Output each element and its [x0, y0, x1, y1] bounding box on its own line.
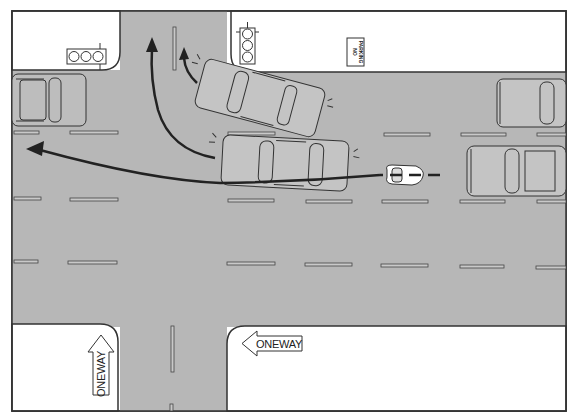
svg-text:PARKING: PARKING: [358, 41, 364, 64]
no-parking-sign: NO PARKING: [347, 38, 364, 66]
svg-text:ONEWAY: ONEWAY: [95, 350, 107, 397]
svg-text:ONEWAY: ONEWAY: [256, 338, 303, 350]
svg-text:NO: NO: [352, 48, 358, 56]
sidewalk-top-right: [231, 11, 566, 72]
parked-car-right-top: [497, 79, 566, 127]
intersection-diagram: NO PARKING ONEWAY ONEWAY: [0, 0, 575, 420]
car-right-lower: [467, 146, 566, 196]
parked-car-left: [12, 74, 86, 126]
